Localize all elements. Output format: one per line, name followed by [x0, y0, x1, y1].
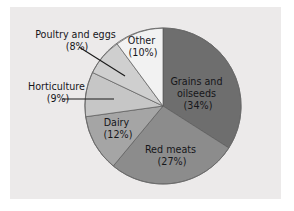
- horticulture-label-line-2: (9%): [47, 93, 70, 104]
- other-label-line-1: Other: [128, 35, 155, 46]
- dairy-label-line-2: (12%): [104, 129, 133, 140]
- slice-label-other: Other (10%): [128, 35, 158, 58]
- dairy-label-line-1: Dairy: [104, 117, 130, 128]
- slice-label-poultry-and-eggs: Poultry and eggs (8%): [35, 29, 119, 52]
- other-label-line-2: (10%): [129, 47, 158, 58]
- red-meats-label-line-2: (27%): [158, 156, 187, 167]
- grains-label-line-2: oilseeds: [177, 88, 216, 99]
- pie-chart-screenshot: Grains and oilseeds (34%) Red meats (27%…: [0, 0, 294, 211]
- poultry-label-line-2: (8%): [66, 41, 89, 52]
- red-meats-label-line-1: Red meats: [145, 144, 196, 155]
- grains-label-line-3: (34%): [184, 100, 213, 111]
- slice-label-horticulture: Horticulture (9%): [28, 81, 88, 104]
- slice-label-dairy: Dairy (12%): [104, 117, 133, 140]
- grains-label-line-1: Grains and: [170, 76, 222, 87]
- poultry-label-line-1: Poultry and eggs: [35, 29, 116, 40]
- horticulture-label-line-1: Horticulture: [28, 81, 85, 92]
- pie-chart: Grains and oilseeds (34%) Red meats (27%…: [0, 0, 294, 211]
